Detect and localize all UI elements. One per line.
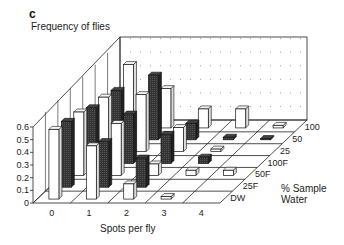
z-axis-label-line1: % Sample <box>281 183 327 194</box>
bar <box>273 122 286 128</box>
bar <box>74 109 87 175</box>
bar <box>161 86 174 128</box>
bar <box>236 106 249 128</box>
x-tick-label: 0 <box>49 208 54 218</box>
x-axis-label: Spots per fly <box>100 223 156 234</box>
x-tick-label: 4 <box>199 208 204 218</box>
row-label: DW <box>230 193 245 203</box>
x-tick-label: 2 <box>124 208 129 218</box>
bars <box>49 62 286 199</box>
bar <box>161 194 174 200</box>
row-label: 100 <box>305 122 320 132</box>
x-tick-label: 1 <box>87 208 92 218</box>
bar <box>61 118 74 187</box>
bar <box>211 146 224 152</box>
bar <box>173 125 186 152</box>
bar <box>86 143 99 199</box>
bar <box>136 92 149 152</box>
y-tick-label: 0.4 <box>16 147 29 157</box>
bar <box>198 154 211 163</box>
row-label: 25F <box>243 181 259 191</box>
bar <box>223 167 236 175</box>
y-tick-label: 0.5 <box>16 135 29 145</box>
bar <box>149 161 162 175</box>
row-label: 50 <box>292 134 302 144</box>
z-axis-label-line2: Water <box>281 194 327 205</box>
y-tick-label: 0.6 <box>16 122 29 132</box>
z-axis-label: % Sample Water <box>281 183 327 205</box>
bar-chart-3d: 00.10.20.30.40.50.601234DW25F50F100F2550… <box>0 0 344 245</box>
bar <box>223 134 236 140</box>
bar <box>111 120 124 175</box>
bar <box>99 139 112 188</box>
x-tick-label: 3 <box>161 208 166 218</box>
y-tick-label: 0.3 <box>16 160 29 170</box>
bar <box>124 111 137 163</box>
bar <box>261 136 274 140</box>
row-label: 25 <box>280 146 290 156</box>
row-label: 50F <box>255 169 271 179</box>
bar <box>49 126 62 199</box>
bar <box>198 106 211 128</box>
y-tick-label: 0.2 <box>16 173 29 183</box>
bar <box>148 72 161 140</box>
y-tick-label: 0 <box>24 198 29 208</box>
bar <box>136 155 149 187</box>
bar <box>186 167 199 175</box>
row-label: 100F <box>268 158 289 168</box>
bar <box>161 131 174 163</box>
bar <box>186 120 199 139</box>
y-tick-label: 0.1 <box>16 185 29 195</box>
bar <box>124 181 137 199</box>
